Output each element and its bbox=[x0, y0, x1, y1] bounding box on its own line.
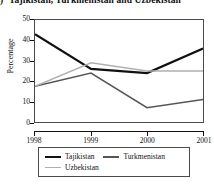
y-axis-tick-label: 0 bbox=[14, 119, 30, 127]
page-title: )Tajikistan, Turkmenistan and Uzbekistan bbox=[0, 0, 214, 6]
legend-label-uzbekistan: Uzbekistan bbox=[65, 163, 99, 173]
legend-item-tajikistan: Tajikistan bbox=[45, 152, 94, 162]
legend-swatch-tajikistan bbox=[45, 156, 61, 158]
plot-area bbox=[34, 19, 204, 123]
legend-swatch-uzbekistan bbox=[45, 167, 61, 168]
legend-row: Tajikistan Turkmenistan bbox=[39, 151, 189, 162]
x-axis-tick-label: 1999 bbox=[74, 136, 108, 146]
x-axis-tick-label: 2001 bbox=[187, 136, 214, 146]
y-axis-tick-labels: 01020304050 bbox=[10, 10, 30, 140]
legend-label-turkmenistan: Turkmenistan bbox=[123, 152, 164, 162]
legend-item-uzbekistan: Uzbekistan bbox=[45, 163, 99, 173]
series-line-uzbekistan bbox=[35, 63, 203, 86]
legend-label-tajikistan: Tajikistan bbox=[65, 152, 94, 162]
x-axis-tick-label: 2000 bbox=[130, 136, 164, 146]
series-line-turkmenistan bbox=[35, 73, 203, 108]
legend-swatch-turkmenistan bbox=[103, 156, 119, 158]
y-axis-tick-label: 30 bbox=[14, 57, 30, 65]
y-axis-tick-mark bbox=[30, 123, 34, 124]
chart-plot-region: Percentage 01020304050 1998199920002001 bbox=[0, 10, 214, 140]
legend-item-turkmenistan: Turkmenistan bbox=[103, 152, 164, 162]
title-text: Tajikistan, Turkmenistan and Uzbekistan bbox=[9, 0, 181, 5]
line-chart-svg bbox=[35, 20, 203, 122]
y-axis-tick-label: 50 bbox=[14, 15, 30, 23]
y-axis-tick-label: 10 bbox=[14, 98, 30, 106]
y-axis-tick-label: 40 bbox=[14, 36, 30, 44]
y-axis-tick-label: 20 bbox=[14, 77, 30, 85]
legend-row: Uzbekistan bbox=[39, 162, 189, 173]
chart-legend: Tajikistan Turkmenistan Uzbekistan bbox=[38, 147, 190, 177]
x-axis-tick-label: 1998 bbox=[17, 136, 51, 146]
title-prefix: ) bbox=[0, 0, 9, 6]
